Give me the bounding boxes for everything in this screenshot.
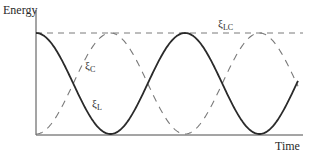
x-axis-label: Time bbox=[275, 140, 300, 152]
inductor-energy-curve bbox=[36, 33, 298, 134]
xi-c-label: ξC bbox=[85, 60, 95, 71]
y-axis-label: Energy bbox=[3, 4, 37, 16]
diagram-canvas bbox=[0, 0, 311, 158]
xi-c-subscript: C bbox=[90, 65, 95, 74]
xi-lc-subscript: LC bbox=[223, 23, 233, 32]
xi-lc-label: ξLC bbox=[218, 18, 233, 29]
energy-oscillation-diagram: Energy Time ξC ξL ξLC bbox=[0, 0, 311, 158]
xi-l-subscript: L bbox=[97, 103, 102, 112]
xi-l-label: ξL bbox=[92, 98, 102, 109]
